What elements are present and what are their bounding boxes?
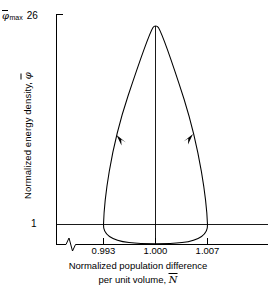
y-axis-title-text: Normalized energy density,: [22, 79, 33, 199]
phi-glyph: φ: [22, 72, 33, 79]
y-max-value: 26: [27, 11, 38, 21]
phi-bar-symbol: φ: [2, 11, 9, 21]
n-glyph: N: [169, 274, 178, 285]
x-tick-label-1000: 1.000: [144, 246, 168, 256]
max-subscript: max: [10, 14, 23, 21]
phi-bar-symbol: φ: [22, 72, 33, 79]
plot-area: [0, 0, 276, 291]
x-tick-label-0993: 0.993: [92, 246, 116, 256]
y-axis-min-label: 1: [31, 219, 37, 229]
x-axis-title-line2: per unit volume, N: [99, 275, 178, 285]
arrow-right-ascending: [184, 134, 194, 145]
x-tick-label-1007: 1.007: [196, 246, 220, 256]
x-axis-break-zigzag: [66, 238, 76, 251]
n-bar-symbol: N: [169, 274, 178, 285]
x-axis-title-line2-text: per unit volume,: [99, 274, 169, 285]
overbar: [169, 273, 178, 274]
y-axis-max-label: φmax26: [2, 11, 38, 21]
x-axis-title-line1: Normalized population difference: [69, 261, 208, 271]
phi-glyph: φ: [2, 10, 9, 21]
y-axis-title: Normalized energy density, φ: [22, 51, 33, 221]
overbar: [21, 73, 22, 79]
overbar: [2, 10, 8, 11]
arrow-left-descending: [117, 135, 127, 146]
chart-figure: φmax26 1 Normalized energy density, φ 0.…: [0, 0, 276, 291]
